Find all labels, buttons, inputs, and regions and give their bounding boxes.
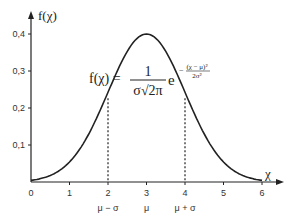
x-tick-label: 4 bbox=[182, 188, 187, 198]
x-tick-label: 3 bbox=[144, 188, 149, 198]
normal-distribution-chart: 0123456μ − σμμ + σ 0,10,20,30,4 f(χ) χ f… bbox=[0, 0, 294, 220]
formula-denominator: σ√2π bbox=[133, 83, 162, 98]
y-tick-label: 0,4 bbox=[12, 29, 25, 39]
sigma-guides bbox=[108, 98, 185, 182]
x-tick-label: 6 bbox=[259, 188, 264, 198]
x-sublabel: μ bbox=[144, 203, 149, 213]
y-ticks: 0,10,20,30,4 bbox=[12, 29, 31, 150]
y-tick-label: 0,2 bbox=[12, 103, 25, 113]
y-tick-label: 0,3 bbox=[12, 66, 25, 76]
formula-lhs: f(χ) = bbox=[89, 71, 121, 87]
y-axis-arrow-icon bbox=[28, 11, 34, 19]
formula-exp-denominator: 2σ² bbox=[192, 72, 201, 80]
x-sublabel: μ + σ bbox=[175, 203, 196, 213]
x-axis-arrow-icon bbox=[276, 179, 284, 185]
x-tick-label: 5 bbox=[221, 188, 226, 198]
formula-exp-sign: − bbox=[179, 66, 184, 75]
x-axis-label: χ bbox=[264, 166, 271, 181]
formula-numerator: 1 bbox=[145, 64, 152, 79]
formula-exp-numerator: (χ − μ)² bbox=[186, 63, 207, 71]
x-tick-label: 2 bbox=[105, 188, 110, 198]
x-ticks: 0123456μ − σμμ + σ bbox=[28, 182, 264, 213]
y-tick-label: 0,1 bbox=[12, 140, 25, 150]
y-axis-label: f(χ) bbox=[38, 8, 57, 23]
x-tick-label: 0 bbox=[28, 188, 33, 198]
density-curve bbox=[31, 34, 262, 180]
x-sublabel: μ − σ bbox=[98, 203, 119, 213]
x-tick-label: 1 bbox=[67, 188, 72, 198]
formula-base: e bbox=[168, 72, 175, 88]
axes bbox=[28, 11, 284, 185]
